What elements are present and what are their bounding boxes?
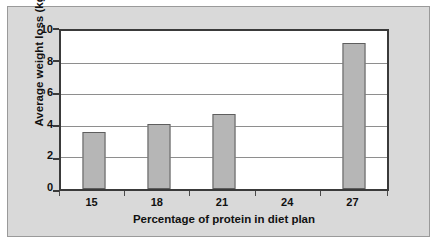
y-tick-label-10: 10 (33, 24, 53, 35)
x-tick-label-18: 18 (124, 196, 189, 208)
x-tick-label-27: 27 (320, 196, 385, 208)
bar-slot-21 (191, 31, 256, 189)
bar-slot-24 (257, 31, 322, 189)
y-tick-label-2: 2 (33, 150, 53, 161)
bar-slot-15 (61, 31, 126, 189)
bar-15[interactable] (82, 132, 105, 189)
plot-area (59, 29, 389, 191)
x-tick-label-21: 21 (189, 196, 254, 208)
y-tick-label-8: 8 (33, 56, 53, 67)
x-axis-title: Percentage of protein in diet plan (59, 213, 389, 225)
y-tick-label-6: 6 (33, 87, 53, 98)
bar-chart: Average weight loss (kg) 10 8 6 4 2 0 (7, 6, 430, 237)
x-axis-tick-labels: 15 18 21 24 27 (59, 196, 389, 210)
bar-slot-27 (322, 31, 387, 189)
y-axis-tick-labels: 10 8 6 4 2 0 (29, 29, 53, 191)
x-tick-label-15: 15 (59, 196, 124, 208)
bar-slot-18 (126, 31, 191, 189)
y-tick-label-4: 4 (33, 119, 53, 130)
x-tick-label-24: 24 (255, 196, 320, 208)
figure: Average weight loss (kg) 10 8 6 4 2 0 (0, 0, 438, 245)
y-tick-label-0: 0 (33, 182, 53, 193)
bar-21[interactable] (212, 114, 235, 189)
bars-group (61, 31, 387, 189)
bar-18[interactable] (147, 124, 170, 189)
bar-27[interactable] (343, 43, 366, 189)
